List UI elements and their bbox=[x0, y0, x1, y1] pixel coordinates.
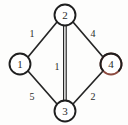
node-group: 1 2 3 4 bbox=[10, 5, 122, 122]
node-2-label: 2 bbox=[62, 9, 68, 21]
edge-weight-3-4: 2 bbox=[91, 91, 96, 102]
edge-weight-1-2: 1 bbox=[30, 28, 35, 39]
graph-canvas: 1 2 3 4 1 4 1 5 2 bbox=[0, 0, 128, 125]
edge-2-4 bbox=[73, 22, 103, 57]
node-3-label: 3 bbox=[62, 105, 68, 117]
edge-weight-1-3: 5 bbox=[30, 91, 35, 102]
edge-weight-2-3: 1 bbox=[55, 61, 60, 72]
node-4-label: 4 bbox=[108, 58, 114, 70]
weighted-graph-figure: 1 2 3 4 1 4 1 5 2 bbox=[0, 0, 128, 125]
edge-3-4 bbox=[73, 71, 103, 104]
node-1-label: 1 bbox=[17, 58, 23, 70]
edge-weight-2-4: 4 bbox=[91, 28, 96, 39]
